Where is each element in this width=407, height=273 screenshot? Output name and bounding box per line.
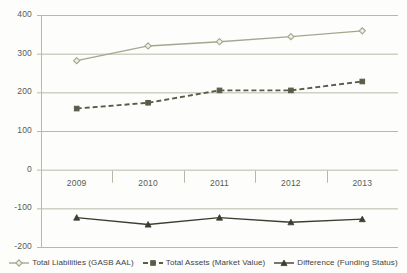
y-tick-label--100: -100 xyxy=(2,202,32,212)
legend-swatch-triangle-icon xyxy=(274,258,294,268)
data-point-marker xyxy=(217,88,222,93)
axis-lines xyxy=(37,15,42,248)
legend-item-3[interactable]: Difference (Funding Status) xyxy=(274,258,397,268)
y-tick-label-0: 0 xyxy=(2,164,32,174)
y-tick-label-100: 100 xyxy=(2,125,32,135)
legend-label: Difference (Funding Status) xyxy=(297,258,397,267)
x-tick-label-2012: 2012 xyxy=(266,178,316,188)
data-point-marker xyxy=(151,260,156,265)
data-point-marker xyxy=(146,100,151,105)
data-point-marker xyxy=(145,43,151,49)
x-tick-label-2010: 2010 xyxy=(123,178,173,188)
gridlines xyxy=(41,16,398,248)
data-point-marker xyxy=(16,259,22,265)
series-layer xyxy=(74,28,366,227)
series-line xyxy=(77,31,363,61)
chart-container: 4003002001000-100-200 200920102011201220… xyxy=(0,0,407,273)
series-2 xyxy=(74,79,364,111)
x-tick-label-2009: 2009 xyxy=(52,178,102,188)
data-point-marker xyxy=(360,79,365,84)
x-tick-label-2013: 2013 xyxy=(337,178,387,188)
data-point-marker xyxy=(288,34,294,40)
legend-label: Total Liabilities (GASB AAL) xyxy=(32,258,134,267)
chart-plot-area xyxy=(0,0,407,273)
y-tick-label-300: 300 xyxy=(2,48,32,58)
data-point-marker xyxy=(74,58,80,64)
x-tick-label-2011: 2011 xyxy=(195,178,245,188)
series-3 xyxy=(74,215,366,228)
series-1 xyxy=(74,28,366,64)
legend-item-2[interactable]: Total Assets (Market Value) xyxy=(143,258,265,268)
data-point-marker xyxy=(216,39,222,45)
series-line xyxy=(77,82,363,109)
chart-legend: Total Liabilities (GASB AAL)Total Assets… xyxy=(0,252,407,273)
data-point-marker xyxy=(359,28,365,34)
legend-item-1[interactable]: Total Liabilities (GASB AAL) xyxy=(9,258,134,268)
data-point-marker xyxy=(74,106,79,111)
y-tick-label-400: 400 xyxy=(2,9,32,19)
legend-swatch-square-icon xyxy=(143,258,163,268)
y-tick-label-200: 200 xyxy=(2,86,32,96)
legend-swatch-diamond-icon xyxy=(9,258,29,268)
legend-label: Total Assets (Market Value) xyxy=(166,258,265,267)
data-point-marker xyxy=(289,88,294,93)
y-tick-label--200: -200 xyxy=(2,241,32,251)
